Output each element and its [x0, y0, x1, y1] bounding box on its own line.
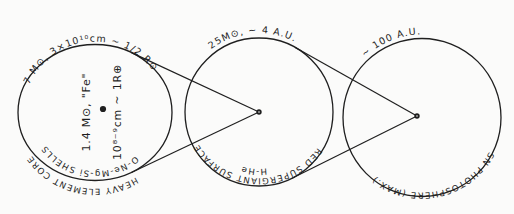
tangent-line-core-lower [131, 112, 259, 173]
core-center-dot [100, 106, 106, 112]
supergiant-center-dot-hole [258, 111, 260, 113]
core-radius-label: 10⁸⁻⁹cm ~ 1R⊕ [111, 64, 124, 160]
supergiant-bottom-outer-label: RED SUPERGIANT SURFACE [191, 142, 324, 186]
tangent-line-supergiant-upper [295, 48, 417, 117]
tangent-line-supergiant-lower [292, 116, 417, 178]
photosphere-bottom-label: SN PHOTOSPHERE (MAX.) [370, 151, 496, 201]
supergiant-top-label: 25M⊙, ~ 4 A.U. [206, 24, 299, 51]
diagram-canvas: 7 M⊙, 3×10¹⁰cm ~ 1/2 R⊙ HEAVY ELEMENT CO… [0, 0, 514, 214]
core-mass-label: 1.4 M⊙, "Fe" [80, 73, 93, 152]
stellar-structure-diagram: 7 M⊙, 3×10¹⁰cm ~ 1/2 R⊙ HEAVY ELEMENT CO… [0, 0, 514, 214]
photosphere-center-dot-hole [416, 115, 418, 117]
photosphere-top-label: ~ 100 A.U. [359, 25, 422, 58]
